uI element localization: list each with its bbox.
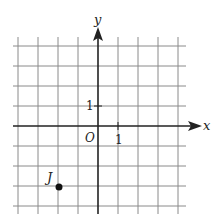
- point-j: [56, 184, 63, 191]
- x-tick-label: 1: [115, 133, 123, 147]
- x-axis-label: x: [203, 118, 211, 133]
- y-axis-label: y: [93, 12, 102, 27]
- coordinate-plane: x y O 1 1 J: [0, 0, 217, 221]
- point-j-label: J: [44, 170, 53, 185]
- origin-label: O: [85, 131, 95, 145]
- y-tick-label: 1: [86, 99, 94, 113]
